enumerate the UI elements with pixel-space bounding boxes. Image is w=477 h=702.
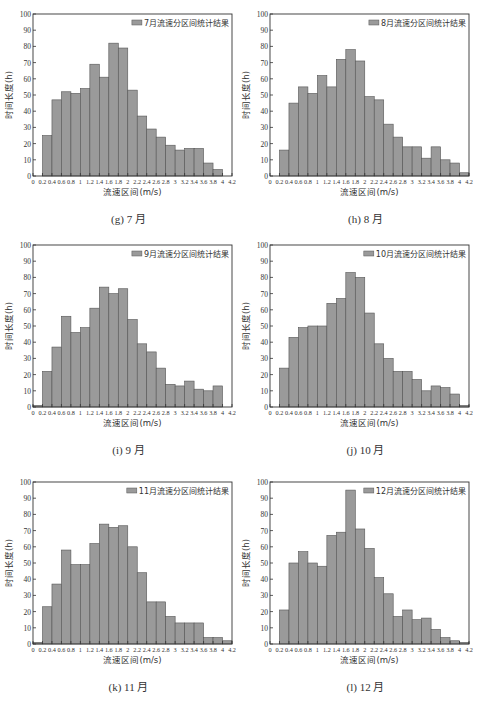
x-tick-label: 3.4 xyxy=(190,646,198,653)
x-tick-label: 0.6 xyxy=(295,409,303,416)
x-tick-label: 1.2 xyxy=(86,178,94,185)
bar xyxy=(384,594,393,644)
x-tick-label: 0.6 xyxy=(58,646,66,653)
x-tick-label: 0 xyxy=(31,178,34,185)
histogram-j: 010203040506070809010000.20.40.60.811.21… xyxy=(237,231,474,431)
x-tick-label: 1.6 xyxy=(342,409,350,416)
bar xyxy=(147,352,156,407)
y-axis-label: 时间长度(h) xyxy=(241,71,251,119)
bar xyxy=(156,602,165,644)
bar xyxy=(336,298,345,407)
x-tick-label: 1.6 xyxy=(105,646,113,653)
bar xyxy=(175,150,184,176)
bar xyxy=(308,563,317,644)
bars xyxy=(33,287,223,407)
x-tick-label: 1 xyxy=(79,646,82,653)
legend: 10月流速分区间统计结果 xyxy=(364,249,466,259)
y-tick-label: 50 xyxy=(261,559,269,568)
x-tick-label: 3.4 xyxy=(427,646,435,653)
x-tick-label: 1 xyxy=(79,178,82,185)
x-tick-label: 1.8 xyxy=(114,409,122,416)
bar xyxy=(327,303,336,407)
x-tick-label: 3.4 xyxy=(427,178,435,185)
y-tick-label: 10 xyxy=(261,156,269,165)
x-tick-label: 0 xyxy=(31,409,34,416)
x-tick-label: 3 xyxy=(174,178,177,185)
x-tick-label: 3.6 xyxy=(437,646,445,653)
y-tick-label: 10 xyxy=(24,387,32,396)
bar xyxy=(374,100,383,176)
y-tick-label: 60 xyxy=(24,75,32,84)
bar xyxy=(52,100,61,176)
bar xyxy=(327,87,336,176)
x-tick-label: 4.2 xyxy=(465,178,473,185)
y-tick-label: 10 xyxy=(24,156,32,165)
bar xyxy=(71,565,80,644)
bar xyxy=(185,381,194,407)
bars xyxy=(279,273,469,407)
bar xyxy=(289,563,298,644)
x-tick-label: 2.6 xyxy=(152,646,160,653)
bar xyxy=(450,394,459,407)
x-tick-label: 1.8 xyxy=(351,646,359,653)
y-tick-label: 30 xyxy=(261,591,269,600)
y-tick-label: 10 xyxy=(261,624,269,633)
bar xyxy=(118,48,127,176)
x-tick-label: 3.4 xyxy=(190,178,198,185)
bar xyxy=(42,371,51,407)
bar xyxy=(137,573,146,644)
bar xyxy=(223,641,232,644)
x-tick-label: 2.2 xyxy=(370,409,378,416)
x-tick-label: 4.2 xyxy=(228,409,236,416)
x-axis-label: 流速区间(m/s) xyxy=(340,655,398,665)
legend-label: 8月流速分区间统计结果 xyxy=(381,18,466,28)
bar xyxy=(194,389,203,407)
bar xyxy=(194,623,203,644)
x-tick-label: 3.2 xyxy=(418,409,426,416)
bar xyxy=(346,273,355,407)
histogram-k: 010203040506070809010000.20.40.60.811.21… xyxy=(0,468,237,668)
bar xyxy=(213,386,222,407)
y-tick-label: 40 xyxy=(261,338,269,347)
x-tick-label: 2.8 xyxy=(162,646,170,653)
x-tick-label: 3 xyxy=(174,646,177,653)
bar xyxy=(80,89,89,176)
legend-swatch xyxy=(132,251,142,256)
bar xyxy=(99,77,108,176)
y-tick-label: 40 xyxy=(24,107,32,116)
x-tick-label: 0.8 xyxy=(67,178,75,185)
x-axis-label: 流速区间(m/s) xyxy=(103,655,161,665)
bar xyxy=(355,61,364,176)
x-tick-label: 2.6 xyxy=(152,178,160,185)
bar xyxy=(118,289,127,407)
chart-panel-i: 010203040506070809010000.20.40.60.811.21… xyxy=(0,231,237,461)
y-tick-label: 80 xyxy=(24,273,32,282)
bar xyxy=(403,371,412,407)
legend: 8月流速分区间统计结果 xyxy=(369,18,466,28)
x-tick-label: 3.8 xyxy=(446,178,454,185)
x-tick-label: 0.6 xyxy=(58,178,66,185)
y-tick-label: 80 xyxy=(24,42,32,51)
x-tick-label: 1.8 xyxy=(351,409,359,416)
bar xyxy=(289,103,298,176)
bar xyxy=(204,391,213,407)
x-tick-label: 2.2 xyxy=(133,178,141,185)
x-tick-label: 3.2 xyxy=(181,409,189,416)
y-tick-label: 40 xyxy=(24,338,32,347)
legend: 12月流速分区间统计结果 xyxy=(364,486,466,496)
x-tick-label: 3.8 xyxy=(446,409,454,416)
x-tick-label: 2.4 xyxy=(380,646,388,653)
bar xyxy=(308,93,317,176)
x-tick-label: 0.8 xyxy=(67,646,75,653)
x-tick-label: 3.6 xyxy=(200,646,208,653)
chart-panel-l: 010203040506070809010000.20.40.60.811.21… xyxy=(237,468,474,698)
bar xyxy=(393,137,402,176)
y-tick-label: 100 xyxy=(20,10,32,19)
y-tick-label: 80 xyxy=(261,273,269,282)
bar xyxy=(384,358,393,407)
bar xyxy=(61,550,70,644)
x-axis-label: 流速区间(m/s) xyxy=(340,418,398,428)
x-tick-label: 1.4 xyxy=(332,646,340,653)
legend-swatch xyxy=(132,20,142,25)
y-tick-label: 80 xyxy=(261,510,269,519)
